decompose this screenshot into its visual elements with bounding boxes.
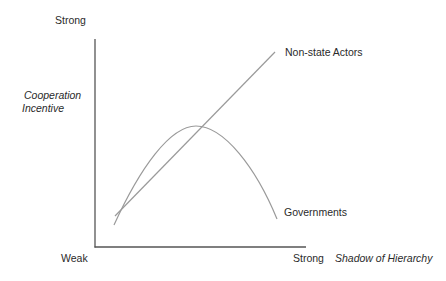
series-label-governments: Governments — [284, 206, 347, 218]
plot-area — [0, 0, 446, 281]
y-axis-max-label: Strong — [55, 14, 86, 26]
series-governments-curve — [114, 126, 277, 225]
y-axis-title-line1: Cooperation — [24, 89, 81, 102]
y-axis-title-line2: Incentive — [22, 102, 81, 115]
y-axis-title: Cooperation Incentive — [24, 89, 81, 115]
axis-min-label: Weak — [61, 252, 88, 264]
x-axis-title: Shadow of Hierarchy — [335, 252, 432, 264]
series-nonstate-actors-line — [115, 52, 275, 216]
x-axis-max-label: Strong — [293, 252, 324, 264]
series-label-nonstate-actors: Non-state Actors — [285, 46, 363, 58]
chart: Strong Cooperation Incentive Weak Strong… — [0, 0, 446, 281]
